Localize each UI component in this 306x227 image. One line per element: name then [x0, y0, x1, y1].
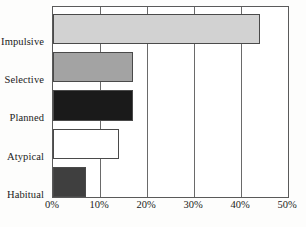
bar-impulsive [53, 14, 260, 44]
bar-selective [53, 52, 133, 82]
plot-area [52, 6, 289, 198]
category-label-selective: Selective [0, 75, 44, 86]
tick-label-40: 40% [220, 200, 260, 211]
tick-label-50: 50% [267, 200, 306, 211]
tick-label-30: 30% [173, 200, 213, 211]
value-axis: 0% 10% 20% 30% 40% 50% [0, 200, 306, 220]
bar-chart: Impulsive Selective Planned Atypical Hab… [0, 0, 306, 227]
category-label-habitual: Habitual [0, 190, 44, 201]
tick-label-20: 20% [126, 200, 166, 211]
category-label-planned: Planned [0, 113, 44, 124]
tick-label-10: 10% [79, 200, 119, 211]
category-label-atypical: Atypical [0, 152, 44, 163]
tick-label-0: 0% [32, 200, 72, 211]
bar-planned [53, 90, 133, 121]
category-label-impulsive: Impulsive [0, 37, 44, 48]
bar-atypical [53, 129, 119, 159]
bar-habitual [53, 167, 86, 197]
category-axis: Impulsive Selective Planned Atypical Hab… [0, 6, 48, 198]
